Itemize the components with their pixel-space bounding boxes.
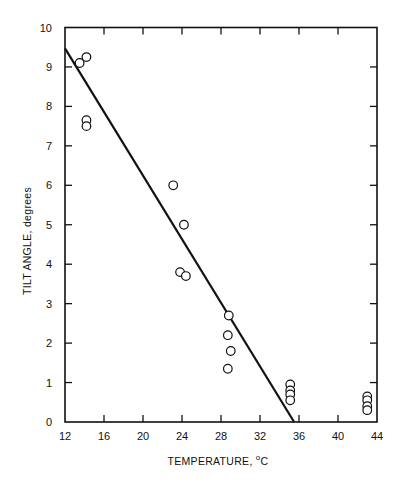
data-point-circle — [169, 181, 178, 190]
data-point-circle — [180, 220, 189, 229]
x-tick-label: 36 — [293, 430, 305, 442]
x-tick-label: 28 — [215, 430, 227, 442]
x-tick-labels: 121620242832364044 — [59, 430, 383, 442]
y-tick-labels: 012345678910 — [40, 22, 52, 429]
x-tick-label: 32 — [254, 430, 266, 442]
data-point-circle — [224, 331, 233, 340]
x-tick-label: 16 — [98, 430, 110, 442]
y-tick-label: 8 — [46, 100, 52, 112]
data-point-circle — [182, 272, 191, 281]
data-point-circle — [225, 311, 234, 320]
data-point-circle — [363, 406, 372, 415]
data-point-circle — [82, 53, 91, 62]
y-tick-label: 1 — [46, 377, 52, 389]
y-tick-label: 2 — [46, 337, 52, 349]
y-tick-label: 9 — [46, 61, 52, 73]
axis-ticks — [65, 28, 377, 423]
y-tick-label: 10 — [40, 22, 52, 34]
plot-frame — [65, 28, 377, 423]
data-point-circle — [224, 364, 233, 373]
y-tick-label: 5 — [46, 219, 52, 231]
y-tick-label: 0 — [46, 416, 52, 428]
data-point-circle — [286, 396, 295, 405]
y-tick-label: 4 — [46, 258, 52, 270]
x-tick-label: 20 — [137, 430, 149, 442]
data-points — [75, 53, 371, 415]
data-point-circle — [226, 347, 235, 356]
scatter-chart: 121620242832364044 012345678910 TEMPERAT… — [0, 0, 402, 485]
x-tick-label: 24 — [176, 430, 188, 442]
y-tick-label: 6 — [46, 179, 52, 191]
fit-line — [65, 48, 294, 422]
plot-border — [65, 28, 377, 423]
y-axis-label: TILT ANGLE, degrees — [21, 187, 33, 295]
y-tick-label: 7 — [46, 140, 52, 152]
regression-line — [65, 48, 294, 422]
x-axis-label: TEMPERATURE, oC — [168, 453, 269, 467]
x-tick-label: 40 — [332, 430, 344, 442]
x-tick-label: 12 — [59, 430, 71, 442]
y-tick-label: 3 — [46, 298, 52, 310]
data-point-circle — [82, 122, 91, 131]
x-tick-label: 44 — [371, 430, 383, 442]
